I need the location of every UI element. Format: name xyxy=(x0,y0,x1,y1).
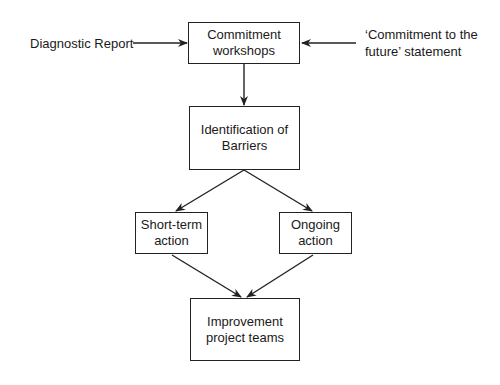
node-commitment-workshops: Commitment workshops xyxy=(188,22,300,64)
node-label-line: Ongoing xyxy=(291,217,340,233)
input-diagnostic-report-text: Diagnostic Report xyxy=(30,36,133,51)
node-improvement-project-teams: Improvement project teams xyxy=(190,298,300,361)
arrow-ongoing-to-improvement xyxy=(247,255,313,297)
input-statement-line-2: future’ statement xyxy=(365,43,478,60)
node-short-term-action: Short-term action xyxy=(135,212,208,254)
node-label-line: project teams xyxy=(206,330,284,346)
input-commitment-statement: ‘Commitment to the future’ statement xyxy=(365,26,478,60)
node-label-line: action xyxy=(154,233,189,249)
input-diagnostic-report: Diagnostic Report xyxy=(30,35,133,52)
arrow-short-term-to-improvement xyxy=(172,255,241,297)
arrow-barriers-to-ongoing xyxy=(244,170,312,211)
arrow-barriers-to-short-term xyxy=(176,170,244,211)
input-statement-line-1: ‘Commitment to the xyxy=(365,26,478,43)
node-label-line: Identification of xyxy=(201,122,288,138)
node-label-line: action xyxy=(298,233,333,249)
node-label-line: workshops xyxy=(213,43,275,59)
node-ongoing-action: Ongoing action xyxy=(279,212,352,254)
node-identification-of-barriers: Identification of Barriers xyxy=(189,106,300,170)
node-label-line: Short-term xyxy=(141,217,202,233)
node-label-line: Barriers xyxy=(222,138,268,154)
node-label-line: Commitment xyxy=(207,27,281,43)
node-label-line: Improvement xyxy=(207,314,283,330)
